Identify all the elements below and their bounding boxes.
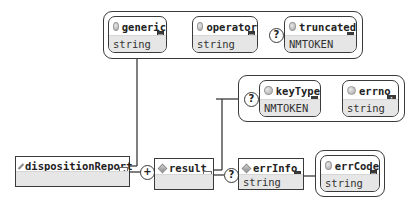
- attribute-icon: [113, 22, 119, 31]
- element-dispositionReport[interactable]: dispositionReport ↗: [15, 156, 130, 187]
- optional-indicator: ?: [244, 92, 259, 107]
- element-type: [155, 174, 213, 189]
- attribute-type: string: [343, 99, 398, 116]
- attribute-truncated[interactable]: truncated NMTOKEN: [284, 16, 357, 53]
- sequence-connector: +: [140, 165, 155, 180]
- element-type: [16, 171, 129, 186]
- attribute-type: string: [193, 35, 257, 52]
- attribute-errno[interactable]: errno i string: [342, 80, 399, 117]
- attribute-icon: [197, 22, 203, 31]
- attribute-generic[interactable]: generic string: [108, 16, 167, 53]
- element-icon: [242, 163, 252, 173]
- attribute-type: string: [321, 174, 379, 191]
- optional-indicator: ?: [269, 28, 284, 43]
- attribute-keyType[interactable]: keyType NMTOKEN: [259, 80, 321, 117]
- attribute-type: NMTOKEN: [285, 35, 356, 52]
- attribute-type: string: [109, 35, 166, 52]
- element-result[interactable]: result ↗: [154, 158, 214, 190]
- attribute-errCode[interactable]: errCode string: [320, 155, 380, 192]
- attribute-icon: [289, 22, 296, 31]
- attribute-operator[interactable]: operator string: [192, 16, 258, 53]
- element-errInfo[interactable]: errInfo string: [238, 158, 304, 190]
- element-icon: [18, 163, 24, 169]
- attribute-icon: [325, 161, 332, 170]
- element-icon: [158, 163, 168, 173]
- attribute-type: NMTOKEN: [260, 99, 320, 116]
- attribute-icon: [347, 86, 356, 95]
- element-type: string: [239, 174, 303, 189]
- attribute-icon: [264, 86, 273, 95]
- optional-indicator: ?: [224, 168, 239, 183]
